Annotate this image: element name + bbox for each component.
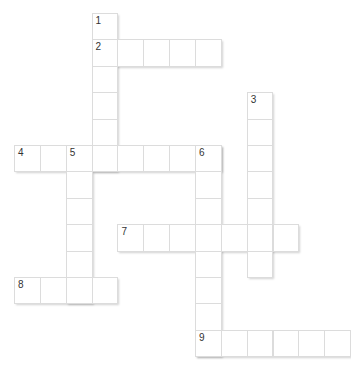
crossword-cell[interactable] <box>195 198 222 225</box>
crossword-cell[interactable] <box>66 251 93 278</box>
crossword-cell[interactable] <box>143 224 170 251</box>
crossword-cell[interactable]: 4 <box>14 145 41 172</box>
clue-number: 4 <box>18 148 24 158</box>
crossword-cell[interactable] <box>324 330 351 357</box>
clue-number: 6 <box>199 148 205 158</box>
crossword-cell[interactable] <box>195 39 222 66</box>
crossword-cell[interactable] <box>169 39 196 66</box>
crossword-cell[interactable] <box>143 39 170 66</box>
crossword-cell[interactable] <box>195 303 222 330</box>
crossword-cell[interactable] <box>92 92 119 119</box>
crossword-cell[interactable] <box>273 224 300 251</box>
crossword-cell[interactable] <box>92 119 119 146</box>
crossword-cell[interactable] <box>247 145 274 172</box>
crossword-cell[interactable] <box>273 330 300 357</box>
crossword-cell[interactable] <box>195 251 222 278</box>
crossword-cell[interactable] <box>40 145 67 172</box>
crossword-cell[interactable] <box>117 145 144 172</box>
crossword-cell[interactable] <box>117 39 144 66</box>
crossword-cell[interactable] <box>247 224 274 251</box>
crossword-cell[interactable] <box>66 198 93 225</box>
crossword-cell[interactable] <box>92 277 119 304</box>
crossword-cell[interactable] <box>195 224 222 251</box>
crossword-cell[interactable]: 5 <box>66 145 93 172</box>
crossword-cell[interactable] <box>92 66 119 93</box>
crossword-cell[interactable]: 7 <box>117 224 144 251</box>
crossword-cell[interactable] <box>143 145 170 172</box>
crossword-cell[interactable] <box>169 145 196 172</box>
crossword-cell[interactable]: 9 <box>195 330 222 357</box>
crossword-cell[interactable] <box>40 277 67 304</box>
crossword-cell[interactable]: 1 <box>92 13 119 40</box>
crossword-cell[interactable] <box>221 224 248 251</box>
crossword-cell[interactable] <box>247 330 274 357</box>
crossword-cell[interactable] <box>195 171 222 198</box>
crossword-cell[interactable] <box>66 171 93 198</box>
crossword-cell[interactable] <box>92 145 119 172</box>
crossword-cell[interactable] <box>195 277 222 304</box>
clue-number: 3 <box>251 95 257 105</box>
crossword-cell[interactable] <box>247 171 274 198</box>
crossword-cell[interactable] <box>247 198 274 225</box>
crossword-cell[interactable] <box>298 330 325 357</box>
crossword-cell[interactable] <box>169 224 196 251</box>
crossword-cell[interactable]: 8 <box>14 277 41 304</box>
crossword-cell[interactable] <box>66 277 93 304</box>
clue-number: 9 <box>199 333 205 343</box>
crossword-cell[interactable] <box>247 251 274 278</box>
clue-number: 2 <box>96 42 102 52</box>
crossword-cell[interactable] <box>66 224 93 251</box>
crossword-cell[interactable]: 2 <box>92 39 119 66</box>
clue-number: 8 <box>18 280 24 290</box>
clue-number: 5 <box>70 148 76 158</box>
clue-number: 7 <box>121 227 127 237</box>
crossword-cell[interactable]: 3 <box>247 92 274 119</box>
crossword-cell[interactable] <box>247 119 274 146</box>
crossword-cell[interactable]: 6 <box>195 145 222 172</box>
crossword-cell[interactable] <box>221 330 248 357</box>
clue-number: 1 <box>96 16 102 26</box>
